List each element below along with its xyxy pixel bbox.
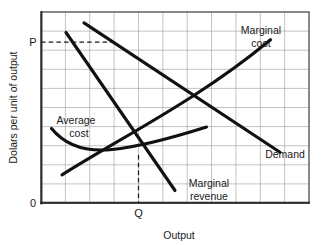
marginal-revenue-label-line1: Marginal <box>189 177 229 189</box>
figure-background <box>0 0 329 245</box>
chart-svg: Dolars per unit of output Output 0 P Q M… <box>0 0 329 245</box>
price-tick-label: P <box>29 36 36 48</box>
marginal-cost-label-line2: cost <box>251 37 270 49</box>
demand-label: Demand <box>265 148 305 160</box>
y-axis-label: Dolars per unit of output <box>7 51 19 163</box>
marginal-revenue-label-line2: revenue <box>190 190 228 202</box>
average-cost-label-line2: cost <box>69 127 88 139</box>
chart-figure: Dolars per unit of output Output 0 P Q M… <box>0 0 329 245</box>
average-cost-label-line1: Average <box>57 114 96 126</box>
x-axis-label: Output <box>163 229 195 241</box>
marginal-cost-label-line1: Marginal <box>241 24 281 36</box>
quantity-tick-label: Q <box>134 207 143 219</box>
origin-label: 0 <box>30 197 36 209</box>
